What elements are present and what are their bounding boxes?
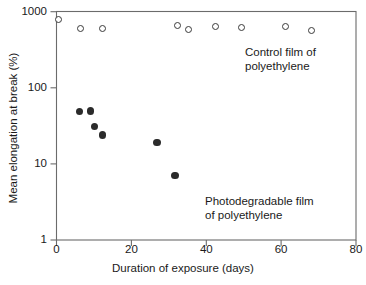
x-tick-label-80: 80 (350, 244, 363, 256)
data-point-control-2 (99, 25, 106, 32)
x-tick-label-40: 40 (200, 244, 213, 256)
data-point-control-8 (308, 27, 315, 34)
y-axis-title: Mean elongation at break (%) (7, 23, 19, 233)
data-point-control-6 (238, 24, 245, 31)
x-axis-title: Duration of exposure (days) (0, 262, 366, 274)
data-point-control-5 (212, 23, 219, 30)
y-tick-marks (51, 12, 57, 240)
data-point-control-1 (77, 25, 84, 32)
data-point-photodegradable-0 (76, 108, 84, 116)
data-point-photodegradable-3 (99, 131, 107, 139)
annotation-photodegradable-film: Photodegradable film of polyethylene (205, 195, 314, 222)
y-tick-label-1000: 1000 (21, 6, 47, 18)
annotation-control-film: Control film of polyethylene (245, 46, 316, 73)
x-tick-label-0: 0 (53, 244, 59, 256)
chart-figure: 1000 100 10 1 0 20 40 60 80 Mean elongat… (0, 0, 366, 285)
data-point-photodegradable-1 (87, 107, 95, 115)
data-point-photodegradable-5 (171, 172, 179, 180)
x-tick-label-20: 20 (125, 244, 138, 256)
data-point-control-7 (282, 23, 289, 30)
y-tick-label-10: 10 (34, 158, 47, 170)
x-tick-label-60: 60 (275, 244, 288, 256)
data-point-photodegradable-2 (91, 123, 99, 131)
data-point-control-0 (55, 16, 62, 23)
y-tick-label-100: 100 (28, 82, 47, 94)
y-tick-label-1: 1 (41, 234, 47, 246)
data-point-control-3 (174, 22, 181, 29)
data-point-control-4 (185, 26, 192, 33)
data-point-photodegradable-4 (153, 139, 161, 147)
